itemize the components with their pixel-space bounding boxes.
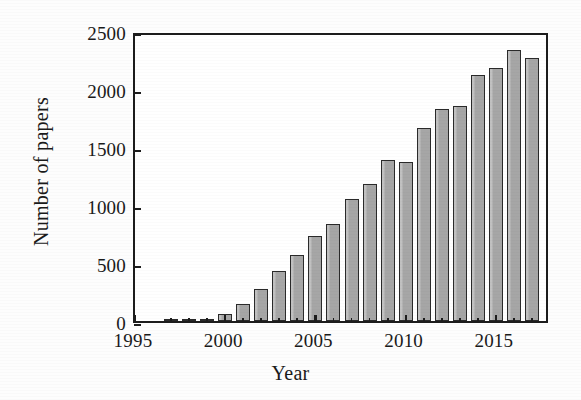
bar xyxy=(381,160,395,321)
y-axis-tick xyxy=(134,324,141,326)
x-axis-minor-tick xyxy=(441,318,443,322)
y-axis-tick xyxy=(134,92,141,94)
x-axis-minor-tick xyxy=(351,318,353,322)
x-axis-title: Year xyxy=(0,362,581,385)
y-axis-tick xyxy=(134,208,141,210)
x-axis-tick-label: 2015 xyxy=(474,331,513,350)
x-axis-tick-label: 1995 xyxy=(114,331,153,350)
x-axis-tick xyxy=(405,315,407,322)
x-axis-minor-tick xyxy=(513,318,515,322)
bar xyxy=(290,255,304,321)
x-axis-tick-label: 2000 xyxy=(204,331,243,350)
x-axis-tick-labels: 19952000200520102015 xyxy=(0,331,581,357)
x-axis-minor-tick xyxy=(206,318,208,322)
bar xyxy=(254,289,268,321)
bar xyxy=(489,68,503,321)
bar xyxy=(272,271,286,321)
bar xyxy=(308,236,322,321)
bars-layer xyxy=(135,35,546,321)
bar xyxy=(525,58,539,321)
x-axis-tick xyxy=(134,315,136,322)
x-axis-minor-tick xyxy=(260,318,262,322)
x-axis-minor-tick xyxy=(369,318,371,322)
bar xyxy=(435,109,449,321)
y-axis-tick-labels: 05001000150020002500 xyxy=(40,33,126,323)
y-axis-tick xyxy=(134,34,141,36)
plot-area xyxy=(133,33,548,323)
bar xyxy=(417,128,431,321)
x-axis-tick xyxy=(314,315,316,322)
bar xyxy=(453,106,467,321)
x-axis-tick-label: 2010 xyxy=(384,331,423,350)
x-axis-minor-tick xyxy=(531,318,533,322)
y-axis-tick xyxy=(134,150,141,152)
x-axis-minor-tick xyxy=(170,318,172,322)
x-axis-minor-tick xyxy=(333,318,335,322)
x-axis-minor-tick xyxy=(423,318,425,322)
y-axis-tick-label: 1500 xyxy=(87,140,126,159)
bar xyxy=(507,50,521,321)
bar xyxy=(399,162,413,322)
x-axis-minor-tick xyxy=(477,318,479,322)
x-axis-minor-tick xyxy=(296,318,298,322)
y-axis-tick-label: 2000 xyxy=(87,82,126,101)
bar xyxy=(326,224,340,321)
bar xyxy=(345,199,359,321)
x-axis-tick xyxy=(495,315,497,322)
y-axis-tick xyxy=(134,266,141,268)
bar-chart-figure: Number of papers 05001000150020002500 19… xyxy=(0,0,581,400)
bar xyxy=(471,75,485,321)
x-axis-minor-tick xyxy=(387,318,389,322)
x-axis-tick-label: 2005 xyxy=(294,331,333,350)
y-axis-tick-label: 2500 xyxy=(87,24,126,43)
x-axis-tick xyxy=(224,315,226,322)
bar xyxy=(363,184,377,321)
y-axis-tick-label: 500 xyxy=(97,256,126,275)
x-axis-minor-tick xyxy=(188,318,190,322)
x-axis-minor-tick xyxy=(242,318,244,322)
x-axis-minor-tick xyxy=(278,318,280,322)
y-axis-tick-label: 1000 xyxy=(87,198,126,217)
x-axis-minor-tick xyxy=(459,318,461,322)
